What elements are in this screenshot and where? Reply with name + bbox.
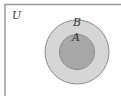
set-a-label: A: [71, 31, 80, 44]
universe-label: U: [12, 9, 22, 22]
set-b-label: B: [72, 16, 81, 29]
venn-diagram: U B A: [0, 0, 121, 96]
